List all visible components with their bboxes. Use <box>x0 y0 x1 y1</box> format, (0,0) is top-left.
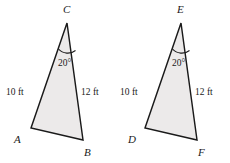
side-label-left-12ft: 12 ft <box>81 87 99 97</box>
side-label-left-10ft: 10 ft <box>6 87 24 97</box>
vertex-label-C: C <box>63 3 71 15</box>
triangle-left: 20° C A B 10 ft 12 ft <box>6 3 99 158</box>
vertex-label-B: B <box>84 146 91 158</box>
vertex-label-D: D <box>127 133 136 145</box>
angle-label-right: 20° <box>172 58 186 68</box>
triangle-right-body <box>145 23 197 140</box>
geometry-figure: 20° C A B 10 ft 12 ft 20° E D F 10 ft 12… <box>0 0 230 163</box>
triangle-left-body <box>31 23 83 140</box>
side-label-right-12ft: 12 ft <box>195 87 213 97</box>
vertex-label-F: F <box>197 146 205 158</box>
vertex-label-A: A <box>13 133 21 145</box>
side-label-right-10ft: 10 ft <box>120 87 138 97</box>
triangle-right: 20° E D F 10 ft 12 ft <box>120 3 213 158</box>
angle-label-left: 20° <box>58 58 72 68</box>
vertex-label-E: E <box>176 3 184 15</box>
geometry-canvas: 20° C A B 10 ft 12 ft 20° E D F 10 ft 12… <box>0 0 230 163</box>
